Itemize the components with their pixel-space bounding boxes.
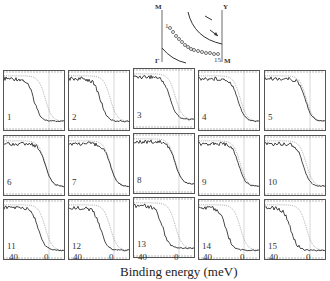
x-tick-0: 0 [109,252,114,262]
inset-point-last: 15 [214,56,221,64]
edc-panel-9: 9 [198,135,260,196]
panel-label: 8 [137,175,142,185]
edc-plot [4,71,64,130]
panel-label: 3 [137,110,142,120]
panel-label: 9 [202,177,207,187]
edc-plot [134,134,194,193]
x-tick-0: 0 [306,252,311,262]
panel-label: 10 [268,177,277,187]
edc-panel-11: 11 [3,199,65,260]
edc-panel-3: 3 [133,68,195,129]
x-tick-40: 40 [9,252,18,262]
edc-curve [69,142,129,187]
panel-label: 11 [7,241,16,251]
x-axis-label: Binding energy (meV) [120,264,237,280]
edc-panel-2: 2 [68,70,130,131]
reference-curve [69,141,129,186]
reference-curve [69,76,129,121]
reference-curve [4,76,64,121]
edc-panel-8: 8 [133,133,195,194]
panel-label: 14 [202,241,211,251]
panel-label: 1 [7,112,12,122]
edc-panel-5: 5 [264,70,326,131]
panel-label: 4 [202,112,207,122]
edc-plot [4,136,64,195]
inset-label-gamma: Γ [155,57,159,65]
edc-curve [4,77,64,122]
edc-plot [199,71,259,130]
edc-curve [69,77,129,122]
inset-label-m-top: M [155,3,162,11]
edc-panel-10: 10 [264,135,326,196]
reference-curve [265,76,325,121]
edc-plot [199,136,259,195]
panel-label: 6 [7,177,12,187]
x-tick-40: 40 [203,252,212,262]
panel-label: 5 [268,112,273,122]
inset-label-y: Y [223,3,228,11]
panel-label: 7 [72,177,77,187]
x-tick-0: 0 [240,252,245,262]
x-tick-40: 40 [138,252,147,262]
panel-label: 12 [72,241,81,251]
edc-curve [4,142,64,187]
reference-curve [4,141,64,186]
x-tick-40: 40 [269,252,278,262]
edc-panel-1: 1 [3,70,65,131]
edc-panel-13: 13 [133,197,195,258]
edc-panel-4: 4 [198,70,260,131]
x-tick-0: 0 [44,252,49,262]
x-tick-40: 40 [73,252,82,262]
edc-plot [265,71,325,130]
edc-curve [134,75,194,119]
edc-panel-6: 6 [3,135,65,196]
inset-point-first: 1 [165,22,169,30]
edc-panel-14: 14 [198,199,260,260]
edc-plot [69,71,129,130]
panel-label: 13 [137,239,146,249]
edc-curve [265,77,325,121]
reference-curve [134,139,194,184]
edc-plot [134,69,194,128]
panel-label: 15 [268,241,277,251]
panel-label: 2 [72,112,77,122]
edc-curve [199,142,259,186]
edc-panel-7: 7 [68,135,130,196]
reference-curve [199,141,259,186]
inset-label-m-bottom: M [224,57,231,65]
brillouin-zone-inset: M Y Γ M 1 15 [150,0,232,66]
edc-plot [69,136,129,195]
edc-panel-12: 12 [68,199,130,260]
reference-curve [134,74,194,119]
x-tick-0: 0 [174,252,179,262]
edc-curve [199,77,259,121]
edc-panel-15: 15 [264,199,326,260]
edc-curve [134,140,194,184]
